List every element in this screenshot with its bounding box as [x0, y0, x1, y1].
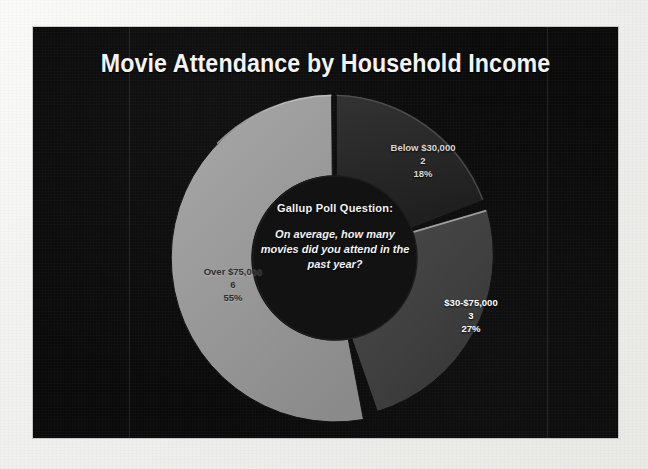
- donut-hole: [253, 176, 417, 340]
- donut-chart-svg: [165, 88, 505, 428]
- chart-title: Movie Attendance by Household Income: [53, 49, 597, 78]
- textbox-guide-left: [129, 27, 130, 438]
- presentation-slide: Movie Attendance by Household Income: [33, 27, 618, 438]
- textbox-guide-right: [547, 27, 548, 438]
- screenshot-root: Movie Attendance by Household Income: [0, 0, 648, 469]
- donut-chart: Below $30,000 2 18% $30-$75,000 3 27% Ov…: [165, 88, 505, 428]
